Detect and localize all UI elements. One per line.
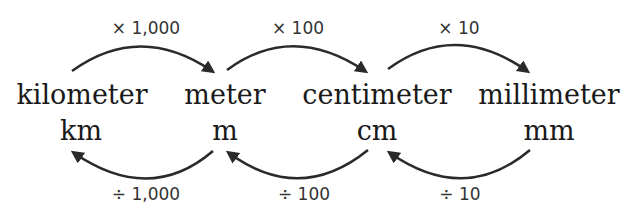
unit-abbr-cm: cm	[357, 115, 398, 146]
unit-name-centimeter: centimeter	[302, 79, 451, 110]
multiply-label-km-to-m: × 1,000	[112, 18, 180, 38]
divide-label-mm-to-cm: ÷ 10	[439, 184, 480, 204]
unit-abbr-m: m	[212, 115, 238, 146]
unit-name-meter: meter	[184, 79, 265, 110]
divide-label-cm-to-m: ÷ 100	[278, 184, 330, 204]
divide-arrow-m-to-km	[74, 151, 213, 179]
multiply-arrow-m-to-cm	[227, 46, 365, 71]
multiply-arrow-cm-to-mm	[388, 45, 527, 71]
multiply-label-m-to-cm: × 100	[272, 18, 324, 38]
divide-arrow-cm-to-m	[229, 150, 368, 178]
metric-length-conversion-diagram: × 1,000 × 100 × 10 kilometer meter centi…	[0, 0, 629, 222]
unit-name-kilometer: kilometer	[16, 79, 147, 110]
multiply-arrow-km-to-m	[72, 47, 212, 72]
unit-abbr-mm: mm	[523, 115, 574, 146]
divide-label-m-to-km: ÷ 1,000	[112, 184, 180, 204]
unit-name-millimeter: millimeter	[478, 79, 620, 110]
divide-arrow-mm-to-cm	[390, 150, 530, 178]
multiply-label-cm-to-mm: × 10	[438, 18, 479, 38]
unit-abbr-km: km	[60, 115, 102, 146]
